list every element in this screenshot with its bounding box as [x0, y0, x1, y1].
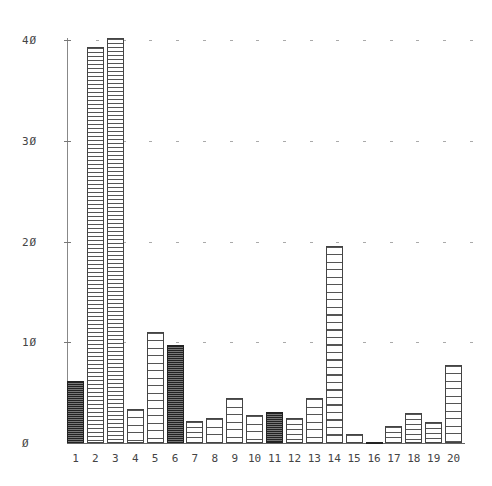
- bar-7: [186, 421, 203, 443]
- gridline-dash: [310, 342, 313, 343]
- bar-18: [405, 413, 422, 443]
- y-tick-label: 1Ø: [22, 336, 52, 349]
- x-tick-label: 7: [185, 452, 205, 465]
- gridline-dash: [176, 342, 179, 343]
- gridline-dash: [336, 242, 339, 243]
- gridline-dash: [149, 242, 152, 243]
- gridline-dash: [283, 40, 286, 41]
- gridline-dash: [443, 40, 446, 41]
- bar-14: [326, 246, 343, 443]
- x-tick-label: 15: [344, 452, 364, 465]
- x-tick-label: 16: [364, 452, 384, 465]
- gridline-dash: [230, 40, 233, 41]
- bar-11: [266, 412, 283, 443]
- y-tick-mark: [64, 40, 71, 41]
- x-tick-label: 2: [85, 452, 105, 465]
- gridline-dash: [256, 342, 259, 343]
- gridline-dash: [203, 342, 206, 343]
- x-tick-label: 9: [225, 452, 245, 465]
- gridline-dash: [390, 40, 393, 41]
- gridline-dash: [176, 40, 179, 41]
- bar-3: [107, 38, 124, 443]
- bar-4: [127, 409, 144, 443]
- gridline-dash: [443, 141, 446, 142]
- bar-15: [346, 434, 363, 443]
- x-tick-label: 18: [404, 452, 424, 465]
- x-tick-label: 1: [66, 452, 86, 465]
- bar-9: [226, 398, 243, 443]
- bar-20: [445, 365, 462, 443]
- gridline-dash: [283, 342, 286, 343]
- gridline-dash: [149, 141, 152, 142]
- gridline-dash: [149, 40, 152, 41]
- x-tick-label: 11: [265, 452, 285, 465]
- gridline-dash: [310, 40, 313, 41]
- x-tick-label: 13: [304, 452, 324, 465]
- x-axis-baseline: [67, 443, 465, 444]
- gridline-dash: [203, 40, 206, 41]
- gridline-dash: [390, 242, 393, 243]
- y-tick-label: 3Ø: [22, 134, 52, 147]
- gridline-dash: [363, 242, 366, 243]
- gridline-dash: [230, 242, 233, 243]
- bar-2: [87, 47, 104, 443]
- bar-8: [206, 418, 223, 443]
- gridline-dash: [203, 242, 206, 243]
- gridline-dash: [310, 242, 313, 243]
- x-tick-label: 10: [245, 452, 265, 465]
- bar-19: [425, 422, 442, 443]
- gridline-dash: [416, 242, 419, 243]
- gridline-dash: [363, 141, 366, 142]
- gridline-dash: [256, 141, 259, 142]
- gridline-dash: [283, 141, 286, 142]
- x-tick-label: 8: [205, 452, 225, 465]
- y-tick-mark: [64, 141, 71, 142]
- gridline-dash: [470, 141, 473, 142]
- x-tick-label: 5: [145, 452, 165, 465]
- y-tick-mark: [64, 242, 71, 243]
- y-tick-label: 2Ø: [22, 235, 52, 248]
- gridline-dash: [96, 40, 99, 41]
- gridline-dash: [363, 40, 366, 41]
- gridline-dash: [256, 242, 259, 243]
- gridline-dash: [310, 141, 313, 142]
- bar-17: [385, 426, 402, 443]
- gridline-dash: [256, 40, 259, 41]
- x-tick-label: 4: [125, 452, 145, 465]
- y-tick-label: 4Ø: [22, 34, 52, 47]
- gridline-dash: [336, 141, 339, 142]
- gridline-dash: [470, 40, 473, 41]
- bar-16: [366, 442, 383, 444]
- gridline-dash: [176, 141, 179, 142]
- gridline-dash: [416, 141, 419, 142]
- gridline-dash: [336, 40, 339, 41]
- bar-chart: Ø1Ø2Ø3Ø4Ø 123456789101112131415161718192…: [0, 0, 492, 486]
- bar-12: [286, 418, 303, 443]
- x-tick-label: 17: [384, 452, 404, 465]
- gridline-dash: [443, 242, 446, 243]
- gridline-dash: [470, 342, 473, 343]
- x-tick-label: 6: [165, 452, 185, 465]
- y-tick-label: Ø: [22, 437, 52, 450]
- x-tick-label: 12: [284, 452, 304, 465]
- gridline-dash: [416, 342, 419, 343]
- x-tick-label: 14: [324, 452, 344, 465]
- gridline-dash: [416, 40, 419, 41]
- x-tick-label: 3: [105, 452, 125, 465]
- bar-6: [167, 345, 184, 443]
- x-tick-label: 20: [444, 452, 464, 465]
- gridline-dash: [390, 342, 393, 343]
- gridline-dash: [283, 242, 286, 243]
- gridline-dash: [203, 141, 206, 142]
- gridline-dash: [230, 342, 233, 343]
- gridline-dash: [443, 342, 446, 343]
- bar-13: [306, 398, 323, 443]
- gridline-dash: [363, 342, 366, 343]
- gridline-dash: [230, 141, 233, 142]
- bar-1: [67, 381, 84, 443]
- bar-5: [147, 332, 164, 443]
- y-tick-mark: [64, 342, 71, 343]
- bar-10: [246, 415, 263, 443]
- gridline-dash: [390, 141, 393, 142]
- x-tick-label: 19: [424, 452, 444, 465]
